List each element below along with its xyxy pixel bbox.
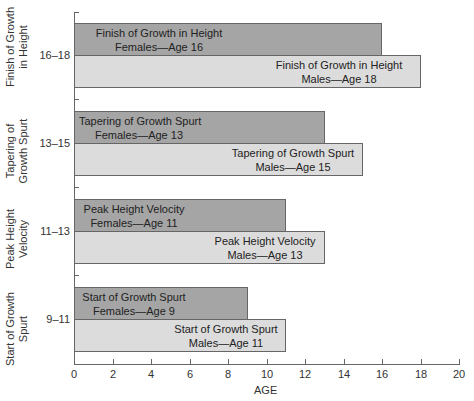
x-tick-label: 18 xyxy=(406,368,436,380)
x-tick xyxy=(151,359,152,364)
category-label-line: Peak Height xyxy=(4,194,17,284)
x-tick-label: 14 xyxy=(329,368,359,380)
category-label-line: Finish of Growth xyxy=(4,2,17,92)
bar-label: Tapering of Growth SpurtFemales—Age 13 xyxy=(79,114,199,142)
x-tick-label: 16 xyxy=(367,368,397,380)
bar-female-tapering: Tapering of Growth SpurtFemales—Age 13 xyxy=(74,111,325,144)
category-range: 9–11 xyxy=(36,313,70,325)
x-tick xyxy=(267,359,268,364)
x-tick-label: 2 xyxy=(98,368,128,380)
category-label-line: in Height xyxy=(17,2,30,92)
bar-label: Peak Height VelocityFemales—Age 11 xyxy=(79,202,189,230)
bar-label: Finish of Growth in HeightFemales—Age 16 xyxy=(79,26,239,54)
x-tick-label: 12 xyxy=(290,368,320,380)
x-tick xyxy=(305,359,306,364)
bar-male-peak-velocity: Peak Height VelocityMales—Age 13 xyxy=(74,231,325,264)
bar-label: Finish of Growth in HeightMales—Age 18 xyxy=(264,58,414,86)
x-tick xyxy=(190,359,191,364)
x-tick xyxy=(382,359,383,364)
x-tick-label: 4 xyxy=(136,368,166,380)
bar-female-peak-velocity: Peak Height VelocityFemales—Age 11 xyxy=(74,199,286,232)
category-label-line: Start of Growth xyxy=(4,284,17,374)
bar-male-tapering: Tapering of Growth SpurtMales—Age 15 xyxy=(74,143,363,176)
x-tick-label: 8 xyxy=(213,368,243,380)
category-range: 13–15 xyxy=(36,137,70,149)
x-tick-label: 6 xyxy=(175,368,205,380)
x-axis xyxy=(74,364,460,365)
category-label-line: Growth Spurt xyxy=(17,106,30,196)
category-range: 16–18 xyxy=(36,49,70,61)
x-tick-label: 20 xyxy=(444,368,474,380)
x-tick xyxy=(74,359,75,364)
x-tick xyxy=(228,359,229,364)
x-tick xyxy=(113,359,114,364)
bar-label: Start of Growth SpurtMales—Age 11 xyxy=(171,322,281,350)
bar-label: Peak Height VelocityMales—Age 13 xyxy=(210,234,320,262)
x-axis-title: AGE xyxy=(254,384,277,396)
bar-male-start-spurt: Start of Growth SpurtMales—Age 11 xyxy=(74,319,286,352)
bar-male-finish-growth: Finish of Growth in HeightMales—Age 18 xyxy=(74,55,421,88)
x-tick-label: 10 xyxy=(252,368,282,380)
category-label-line: Tapering of xyxy=(4,106,17,196)
bar-label: Tapering of Growth SpurtMales—Age 15 xyxy=(228,146,358,174)
category-label-line: Velocity xyxy=(17,194,30,284)
y-tick xyxy=(74,99,79,100)
x-tick xyxy=(459,359,460,364)
x-tick xyxy=(344,359,345,364)
x-tick xyxy=(421,359,422,364)
x-tick-label: 0 xyxy=(59,368,89,380)
bar-label: Start of Growth SpurtFemales—Age 9 xyxy=(79,290,189,318)
bar-female-finish-growth: Finish of Growth in HeightFemales—Age 16 xyxy=(74,23,382,56)
bar-female-start-spurt: Start of Growth SpurtFemales—Age 9 xyxy=(74,287,248,320)
category-label-line: Spurt xyxy=(17,284,30,374)
category-range: 11–13 xyxy=(36,225,70,237)
